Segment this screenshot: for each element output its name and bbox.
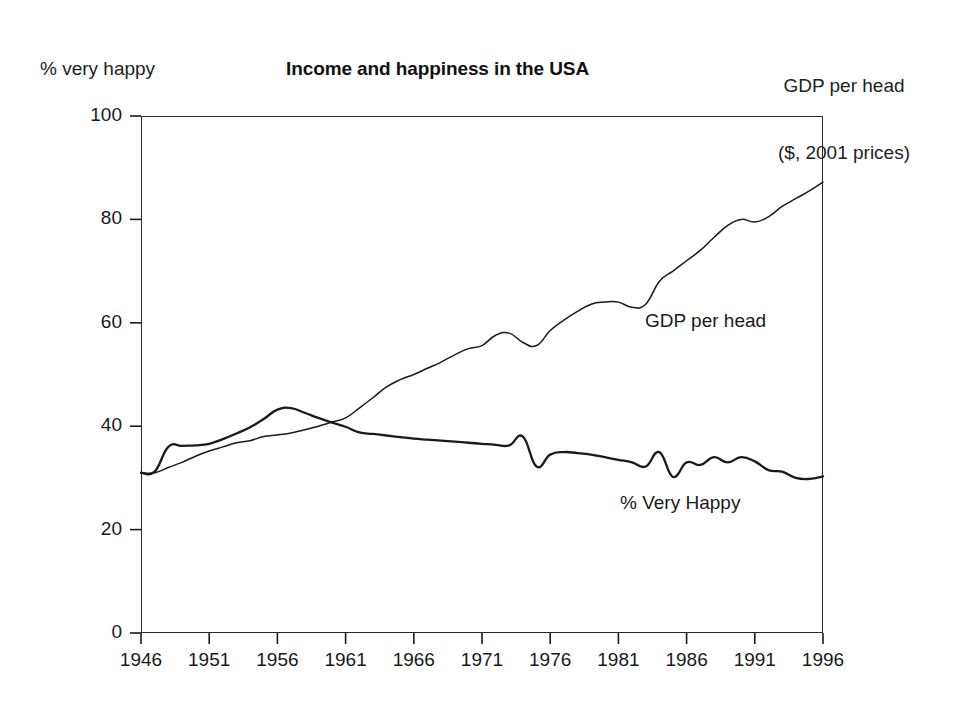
x-tick-label: 1971 <box>447 649 517 671</box>
x-tick-label: 1981 <box>583 649 653 671</box>
left-axis-label: % very happy <box>40 58 155 80</box>
x-tick-label: 1961 <box>311 649 381 671</box>
x-tick-label: 1951 <box>174 649 244 671</box>
right-axis-label-line1: GDP per head <box>778 75 910 97</box>
series-label-percent-very-happy: % Very Happy <box>620 492 740 514</box>
x-tick-label: 1996 <box>788 649 858 671</box>
y-tick-label: 40 <box>62 414 122 436</box>
x-tick-label: 1956 <box>242 649 312 671</box>
chart-title: Income and happiness in the USA <box>286 58 589 80</box>
y-tick-label: 80 <box>62 207 122 229</box>
x-tick-label: 1991 <box>720 649 790 671</box>
series-label-gdp-per-head: GDP per head <box>645 310 766 332</box>
data-lines <box>141 116 823 633</box>
y-tick-label: 20 <box>62 518 122 540</box>
plot-area <box>141 116 823 633</box>
y-tick-label: 100 <box>62 104 122 126</box>
x-tick-label: 1946 <box>106 649 176 671</box>
x-tick-label: 1976 <box>515 649 585 671</box>
x-tick-label: 1966 <box>379 649 449 671</box>
x-tick-label: 1986 <box>652 649 722 671</box>
chart-figure: % very happy Income and happiness in the… <box>0 0 972 711</box>
y-tick-label: 60 <box>62 311 122 333</box>
y-tick-label: 0 <box>62 621 122 643</box>
